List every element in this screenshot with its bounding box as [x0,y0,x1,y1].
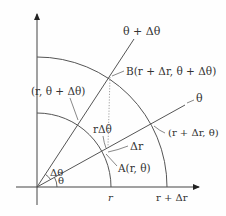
label-x-tick-r-dr: r + Δr [156,192,188,203]
label-point-r-dr-theta: (r + Δr, θ) [168,127,219,138]
leader-r-theta-dtheta [70,98,78,120]
label-arc-length: rΔθ [93,123,112,135]
polar-diagram: θ + Δθ B(r + Δr, θ + Δθ) (r, θ + Δθ) θ r… [0,0,226,216]
label-delta-r: Δr [130,140,144,153]
label-point-A: A(r, θ) [117,162,151,174]
label-theta-ray: θ [196,92,203,105]
dotted-guide [108,77,110,146]
leader-B [112,71,124,76]
diagram-svg: θ + Δθ B(r + Δr, θ + Δθ) (r, θ + Δθ) θ r… [0,0,226,216]
label-x-tick-r: r [108,192,114,203]
label-angle-theta: θ [58,175,64,186]
angle-theta-arc [55,177,58,187]
leader-theta [187,100,194,103]
leader-r-dr-theta [154,126,165,133]
label-point-B: B(r + Δr, θ + Δθ) [126,65,216,77]
leader-r-dtheta [103,136,106,148]
leader-dr [108,146,128,152]
label-point-r-theta-dtheta: (r, θ + Δθ) [31,85,85,97]
label-theta-plus-dtheta: θ + Δθ [123,25,161,38]
